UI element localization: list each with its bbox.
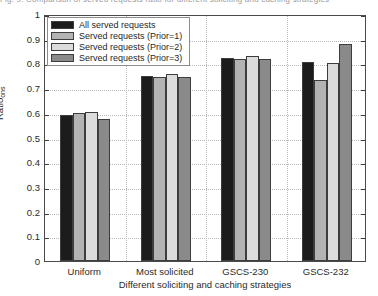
bar — [166, 74, 178, 261]
bar — [153, 77, 165, 262]
bar — [259, 59, 271, 261]
y-axis-tick — [361, 41, 365, 42]
x-axis-category-label: Uniform — [68, 266, 101, 277]
legend-item-label: Served requests (Prior=2) — [79, 43, 182, 52]
bar — [60, 115, 72, 261]
bar-chart-figure: 00.10.20.30.40.50.60.70.80.91 Ratioons U… — [0, 0, 378, 296]
bar — [246, 56, 258, 261]
y-axis-tick — [361, 164, 365, 165]
y-axis-tick — [45, 140, 49, 141]
y-axis-tick — [45, 238, 49, 239]
y-axis-tick-label: 1 — [12, 10, 40, 20]
y-axis-tick-label: 0 — [12, 257, 40, 267]
legend-item[interactable]: Served requests (Prior=1) — [51, 31, 186, 41]
y-axis-tick-label: 0.7 — [12, 84, 40, 94]
legend-swatch-icon — [51, 21, 74, 29]
y-axis-tick — [361, 65, 365, 66]
bar — [234, 59, 246, 261]
x-axis-category-label: Most solicited — [136, 266, 194, 277]
legend-swatch-icon — [51, 43, 74, 51]
bar — [141, 76, 153, 261]
y-axis-tick — [45, 115, 49, 116]
x-axis-category-label: GSCS-230 — [222, 266, 268, 277]
bar — [302, 62, 314, 261]
y-axis-tick — [361, 189, 365, 190]
y-axis-tick — [45, 189, 49, 190]
bar — [327, 63, 339, 261]
x-axis-title: Different soliciting and caching strateg… — [119, 279, 292, 290]
y-axis-tick-label: 0.6 — [12, 109, 40, 119]
y-axis-tick — [361, 16, 365, 17]
gridline-vertical — [287, 16, 288, 261]
legend-item[interactable]: Served requests (Prior=2) — [51, 42, 186, 52]
y-axis-tick — [361, 214, 365, 215]
legend-item[interactable]: Served requests (Prior=3) — [51, 53, 186, 63]
bar — [85, 112, 97, 261]
bar — [98, 119, 110, 261]
y-axis-tick-label: 0.9 — [12, 35, 40, 45]
y-axis-tick — [361, 238, 365, 239]
legend-item-label: Served requests (Prior=1) — [79, 32, 182, 41]
y-axis-tick-label: 0.5 — [12, 134, 40, 144]
legend-swatch-icon — [51, 54, 74, 62]
gridline-vertical — [206, 16, 207, 261]
legend-item-label: All served requests — [79, 21, 156, 30]
y-axis-tick-label: 0.2 — [12, 208, 40, 218]
legend-item-label: Served requests (Prior=3) — [79, 54, 182, 63]
y-axis-title-subscript: ons — [0, 87, 6, 98]
y-axis-tick-label: 0.8 — [12, 59, 40, 69]
y-axis-tick — [361, 115, 365, 116]
bar — [314, 80, 326, 261]
bar — [221, 58, 233, 261]
legend-swatch-icon — [51, 32, 74, 40]
y-axis-title: Ratioons — [0, 87, 5, 120]
y-axis-tick-label: 0.3 — [12, 183, 40, 193]
bar — [178, 77, 190, 261]
chart-legend: All served requestsServed requests (Prio… — [47, 17, 190, 66]
y-axis-tick-label: 0.4 — [12, 158, 40, 168]
bar — [339, 44, 351, 261]
bar — [73, 113, 85, 261]
legend-item[interactable]: All served requests — [51, 20, 186, 30]
y-axis-title-main: Ratio — [0, 98, 5, 120]
y-axis-tick — [45, 90, 49, 91]
y-axis-tick-label: 0.1 — [12, 232, 40, 242]
x-axis-category-label: GSCS-232 — [303, 266, 349, 277]
y-axis-tick — [45, 164, 49, 165]
y-axis-tick — [361, 90, 365, 91]
y-axis-tick — [361, 140, 365, 141]
y-axis-tick — [45, 214, 49, 215]
